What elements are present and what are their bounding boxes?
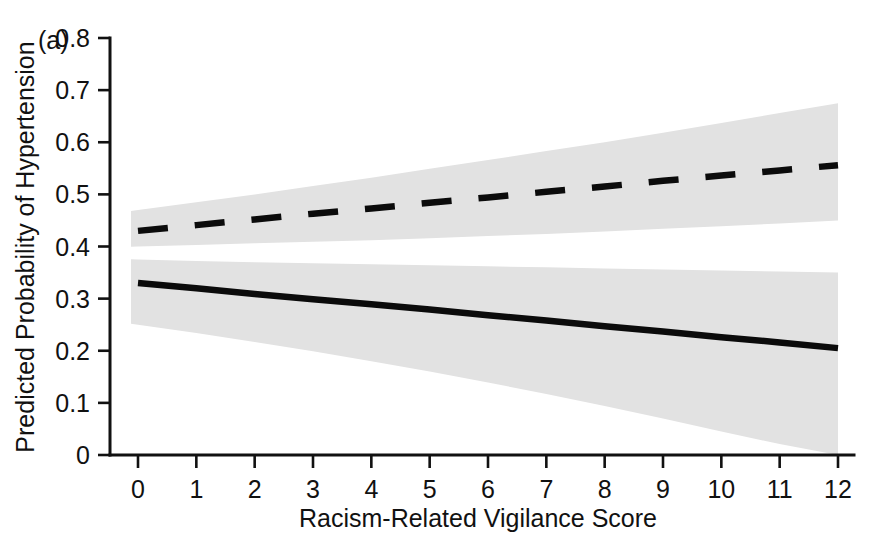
y-tick-label-4: 0.4 [55,233,90,261]
y-axis-title: Predicted Probability of Hypertension [11,41,39,452]
figure-panel: 00.10.20.30.40.50.60.70.8012345678910111… [0,0,882,546]
x-tick-label-8: 8 [598,475,612,503]
y-tick-label-0: 0 [76,441,90,469]
x-tick-label-10: 10 [707,475,735,503]
y-tick-label-3: 0.3 [55,285,90,313]
x-tick-label-7: 7 [539,475,553,503]
confidence-band-2 [131,259,838,455]
x-axis-title: Racism-Related Vigilance Score [299,504,657,532]
y-tick-label-2: 0.2 [55,337,90,365]
x-tick-label-12: 12 [824,475,852,503]
confidence-bands-group [131,103,838,455]
x-tick-label-9: 9 [656,475,670,503]
y-tick-label-1: 0.1 [55,389,90,417]
y-tick-label-5: 0.5 [55,180,90,208]
x-tick-label-11: 11 [767,475,793,503]
x-tick-label-4: 4 [364,475,378,503]
chart-canvas: 00.10.20.30.40.50.60.70.8012345678910111… [0,0,882,546]
x-tick-label-2: 2 [248,475,262,503]
x-tick-label-0: 0 [131,475,145,503]
x-tick-label-6: 6 [481,475,495,503]
x-tick-label-3: 3 [306,475,320,503]
y-tick-label-6: 0.6 [55,128,90,156]
x-tick-label-5: 5 [423,475,437,503]
y-tick-label-7: 0.7 [55,76,90,104]
x-tick-label-1: 1 [189,475,203,503]
panel-label: (a) [38,26,69,54]
